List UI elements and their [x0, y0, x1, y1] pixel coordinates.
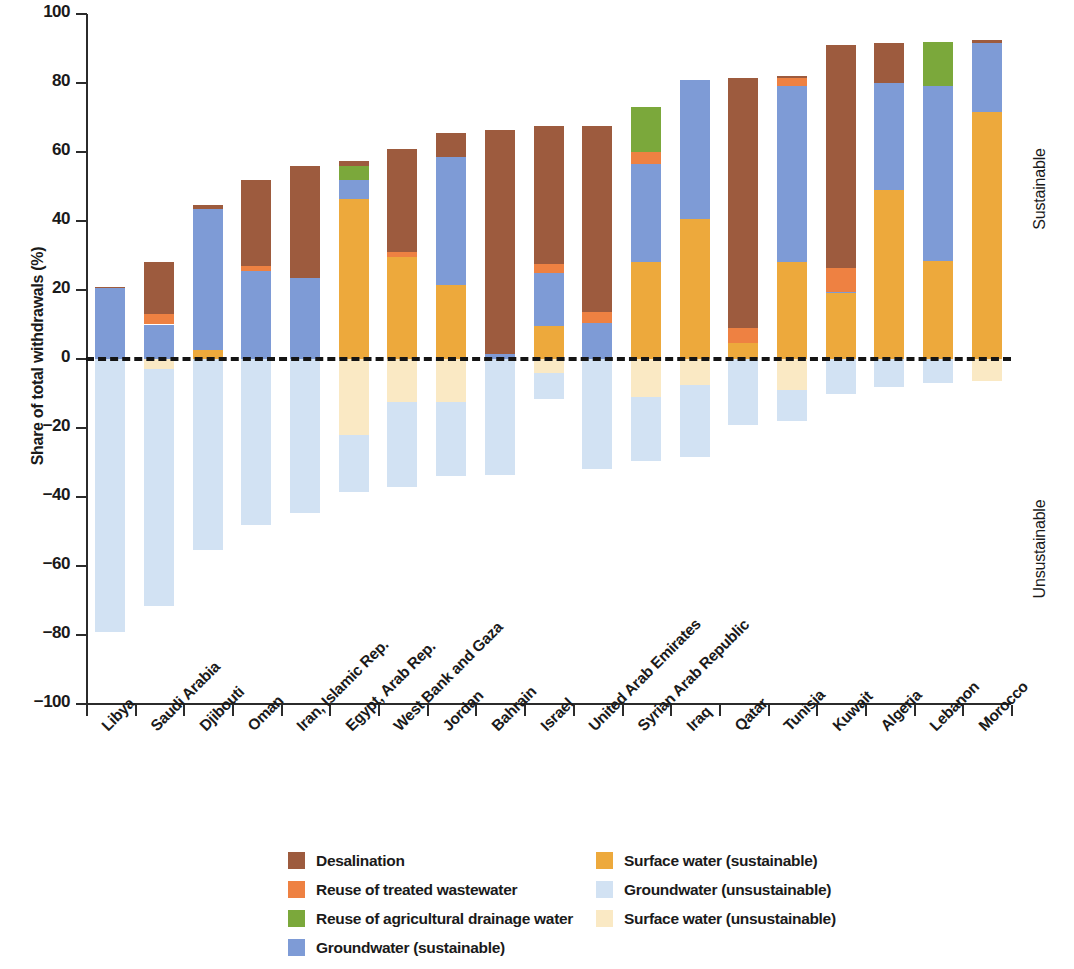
bar-segment-groundwater-unsustainable: [290, 359, 320, 513]
bar-segment-desalination: [95, 287, 125, 289]
bar-segment-surface-sustainable: [387, 257, 417, 359]
annotation-sustainable: Sustainable: [1031, 109, 1049, 269]
y-axis-tick: [76, 220, 87, 222]
legend-item-label: Surface water (unsustainable): [624, 910, 836, 928]
bar-segment-reuse-wastewater: [241, 266, 271, 271]
legend-swatch-icon: [596, 881, 613, 898]
y-axis-tick-label: 40: [8, 209, 70, 229]
bar-segment-desalination: [387, 149, 417, 253]
bar-segment-groundwater-sustainable: [241, 271, 271, 359]
bar-segment-groundwater-unsustainable: [582, 359, 612, 469]
bar-segment-groundwater-sustainable: [923, 86, 953, 260]
bar-segment-groundwater-unsustainable: [339, 435, 369, 492]
legend-item[interactable]: Groundwater (sustainable): [288, 933, 573, 962]
legend-column-left: DesalinationReuse of treated wastewaterR…: [288, 846, 573, 962]
y-axis-tick-label: 0: [8, 347, 70, 367]
bar-segment-desalination: [972, 40, 1002, 43]
y-axis-tick-label: −60: [8, 554, 70, 574]
legend-item[interactable]: Surface water (unsustainable): [596, 904, 836, 933]
legend-item[interactable]: Surface water (sustainable): [596, 846, 836, 875]
bar-segment-desalination: [241, 180, 271, 266]
bar-segment-desalination: [874, 43, 904, 83]
bar-segment-surface-sustainable: [874, 190, 904, 359]
bar-segment-surface-unsustainable: [436, 359, 466, 402]
bar-segment-groundwater-sustainable: [339, 180, 369, 199]
bar-segment-groundwater-unsustainable: [631, 397, 661, 461]
y-axis-tick: [76, 151, 87, 153]
bar-segment-groundwater-sustainable: [680, 80, 710, 220]
bar-segment-surface-sustainable: [339, 199, 369, 359]
legend-item-label: Groundwater (sustainable): [316, 939, 505, 957]
bar-segment-groundwater-unsustainable: [485, 359, 515, 475]
bar-segment-groundwater-sustainable: [777, 86, 807, 262]
bar-segment-surface-sustainable: [777, 262, 807, 359]
bar-segment-reuse-drainage: [631, 107, 661, 152]
bar-segment-groundwater-sustainable: [826, 292, 856, 294]
bar-segment-reuse-wastewater: [582, 312, 612, 322]
bar-segment-surface-sustainable: [680, 219, 710, 359]
bar-segment-surface-unsustainable: [972, 359, 1002, 381]
legend-swatch-icon: [288, 910, 305, 927]
legend-item[interactable]: Reuse of agricultural drainage water: [288, 904, 573, 933]
y-axis-tick-label: 80: [8, 71, 70, 91]
legend-swatch-icon: [288, 852, 305, 869]
bar-segment-groundwater-unsustainable: [144, 369, 174, 605]
bar-segment-desalination: [728, 78, 758, 328]
legend-swatch-icon: [596, 852, 613, 869]
bar-segment-surface-unsustainable: [387, 359, 417, 402]
legend-item-label: Groundwater (unsustainable): [624, 881, 831, 899]
bar-segment-groundwater-sustainable: [972, 43, 1002, 112]
legend-item-label: Surface water (sustainable): [624, 852, 817, 870]
bar-segment-desalination: [777, 76, 807, 78]
legend-item-label: Reuse of agricultural drainage water: [316, 910, 573, 928]
x-axis-tick: [86, 705, 88, 716]
bar-segment-surface-sustainable: [631, 262, 661, 359]
bar-segment-desalination: [339, 161, 369, 166]
bar-segment-groundwater-unsustainable: [387, 402, 417, 487]
annotation-unsustainable: Unsustainable: [1031, 469, 1049, 629]
bar-segment-surface-sustainable: [923, 261, 953, 359]
bar-segment-groundwater-unsustainable: [874, 359, 904, 387]
bar-segment-reuse-wastewater: [777, 78, 807, 87]
chart-legend: DesalinationReuse of treated wastewaterR…: [288, 846, 908, 964]
bar-segment-groundwater-sustainable: [144, 325, 174, 360]
bar-segment-desalination: [290, 166, 320, 278]
legend-item[interactable]: Reuse of treated wastewater: [288, 875, 573, 904]
y-axis-tick: [76, 634, 87, 636]
bar-segment-desalination: [436, 133, 466, 157]
y-axis-tick: [76, 496, 87, 498]
legend-item-label: Reuse of treated wastewater: [316, 881, 517, 899]
bar-segment-groundwater-sustainable: [631, 164, 661, 262]
bar-segment-reuse-wastewater: [144, 314, 174, 324]
legend-item[interactable]: Desalination: [288, 846, 573, 875]
bar-segment-groundwater-unsustainable: [923, 359, 953, 383]
bar-segment-reuse-drainage: [923, 42, 953, 87]
bar-segment-groundwater-sustainable: [436, 157, 466, 285]
zero-reference-line: [86, 357, 1011, 361]
bar-segment-groundwater-unsustainable: [436, 402, 466, 476]
bar-segment-groundwater-unsustainable: [534, 373, 564, 399]
x-axis-category-label: Iraq: [683, 703, 715, 735]
chart-figure: Share of total withdrawals (%) 100806040…: [0, 0, 1074, 969]
legend-item-label: Desalination: [316, 852, 405, 870]
bar-segment-desalination: [144, 262, 174, 314]
bar-segment-desalination: [193, 205, 223, 208]
y-axis-tick: [76, 565, 87, 567]
bar-segment-reuse-wastewater: [387, 252, 417, 257]
legend-item[interactable]: Groundwater (unsustainable): [596, 875, 836, 904]
bar-segment-surface-unsustainable: [339, 359, 369, 435]
bar-segment-surface-unsustainable: [777, 359, 807, 390]
bar-segment-groundwater-sustainable: [874, 83, 904, 190]
bar-segment-groundwater-sustainable: [582, 323, 612, 359]
bar-segment-reuse-wastewater: [534, 264, 564, 273]
bar-segment-desalination: [826, 45, 856, 268]
bar-segment-groundwater-unsustainable: [826, 359, 856, 394]
y-axis-tick: [76, 82, 87, 84]
legend-swatch-icon: [288, 881, 305, 898]
bar-segment-groundwater-unsustainable: [193, 359, 223, 550]
y-axis-tick-label: −20: [8, 416, 70, 436]
y-axis-tick-label: 20: [8, 278, 70, 298]
legend-swatch-icon: [596, 910, 613, 927]
bar-segment-reuse-wastewater: [826, 268, 856, 292]
bar-segment-desalination: [485, 130, 515, 354]
